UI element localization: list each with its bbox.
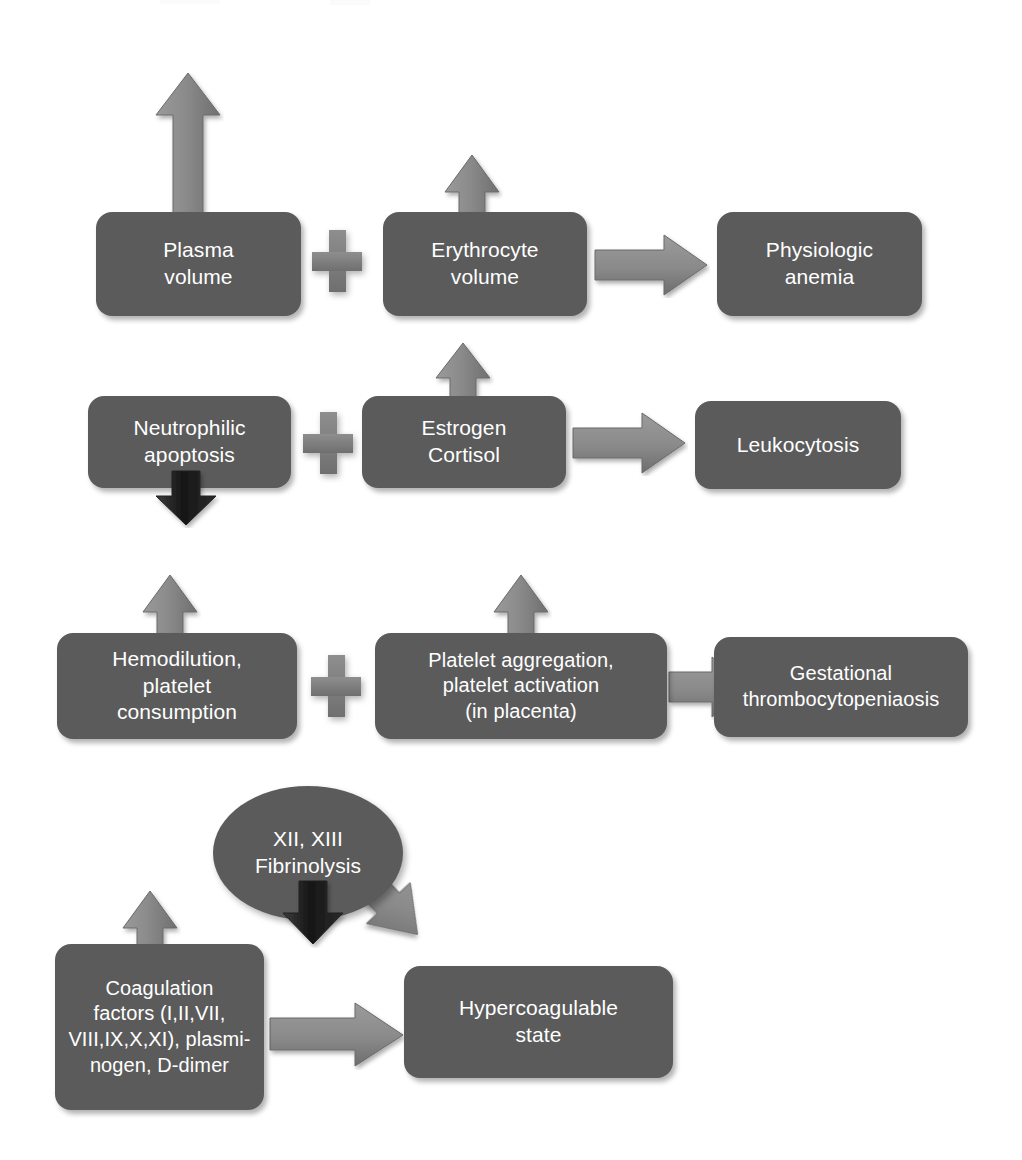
node-hemodilution-platelet-consumption: Hemodilution, platelet consumption: [57, 633, 297, 739]
right-arrow-row4: [267, 1000, 407, 1070]
node-physiologic-anemia: Physiologic anemia: [717, 212, 922, 316]
right-arrow-row1: [592, 232, 710, 298]
node-coagulation-factors: Coagulation factors (I,II,VII, VIII,IX,X…: [55, 944, 264, 1110]
node-gestational-thrombocytopenia-label: Gestational thrombocytopeniaosis: [722, 661, 960, 712]
node-erythrocyte-volume-label: Erythrocyte volume: [391, 237, 579, 291]
up-arrow-hemodilution: [139, 572, 201, 640]
right-arrow-row2: [570, 410, 688, 476]
node-estrogen-cortisol-label: Estrogen Cortisol: [370, 415, 558, 469]
node-hypercoagulable-state: Hypercoagulable state: [404, 966, 673, 1078]
node-hemodilution-platelet-consumption-label: Hemodilution, platelet consumption: [65, 646, 289, 727]
node-gestational-thrombocytopenia: Gestational thrombocytopeniaosis: [714, 637, 968, 737]
node-erythrocyte-volume: Erythrocyte volume: [383, 212, 587, 316]
node-neutrophilic-apoptosis-label: Neutrophilic apoptosis: [96, 415, 283, 469]
node-leukocytosis: Leukocytosis: [695, 401, 901, 489]
up-arrow-platelet-aggregation: [490, 572, 552, 640]
node-physiologic-anemia-label: Physiologic anemia: [725, 237, 914, 291]
up-arrow-plasma-volume: [152, 70, 224, 220]
node-platelet-aggregation-activation: Platelet aggregation, platelet activatio…: [375, 633, 667, 739]
node-coagulation-factors-label: Coagulation factors (I,II,VII, VIII,IX,X…: [63, 976, 256, 1078]
node-leukocytosis-label: Leukocytosis: [703, 432, 893, 459]
node-plasma-volume: Plasma volume: [96, 212, 301, 316]
scan-artifact: [330, 0, 370, 5]
node-estrogen-cortisol: Estrogen Cortisol: [362, 396, 566, 488]
node-plasma-volume-label: Plasma volume: [104, 237, 293, 291]
down-arrow-neutrophilic-apoptosis: [150, 470, 222, 528]
down-arrow-fibrinolysis: [277, 880, 349, 948]
node-hypercoagulable-state-label: Hypercoagulable state: [412, 995, 665, 1049]
node-platelet-aggregation-activation-label: Platelet aggregation, platelet activatio…: [383, 648, 659, 725]
plus-icon-row1: [312, 230, 362, 292]
plus-icon-row3: [311, 655, 361, 717]
node-xii-xiii-fibrinolysis-label: XII, XIII Fibrinolysis: [221, 826, 395, 880]
scan-artifact: [160, 0, 220, 4]
diagram-canvas: Plasma volume Erythrocyte volume Physiol…: [0, 0, 1022, 1160]
plus-icon-row2: [303, 412, 353, 474]
